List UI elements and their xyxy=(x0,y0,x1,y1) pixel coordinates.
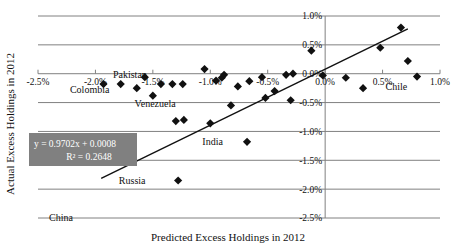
y-tick-label-4: -1.0% xyxy=(299,127,322,137)
y-axis-title: Actual Excess Holdings in 2012 xyxy=(4,53,16,195)
annotation-china: China xyxy=(49,212,73,223)
y-tick-label-0: 1.0% xyxy=(302,11,322,21)
x-tick-label-7: 1.0% xyxy=(430,77,450,87)
annotation-india: India xyxy=(202,136,223,147)
x-tick-label-5: 0.0% xyxy=(315,77,335,87)
equation-text: y = 0.9702x + 0.0008 xyxy=(34,139,116,149)
chart-canvas: 1.0%0.5%0.0%-0.5%-1.0%-1.5%-2.0%-2.5% -2… xyxy=(0,0,456,247)
annotation-colombia: Colombia xyxy=(70,84,110,95)
equation-box: y = 0.9702x + 0.0008R² = 0.2648 xyxy=(29,133,137,166)
x-tick-label-0: -2.5% xyxy=(27,77,50,87)
y-tick-label-6: -2.0% xyxy=(299,185,322,195)
x-tick-label-3: -1.0% xyxy=(199,77,222,87)
y-tick-label-5: -1.5% xyxy=(299,156,322,166)
annotation-venezuela: Venezuela xyxy=(135,98,177,109)
annotation-chile: Chile xyxy=(386,81,408,92)
x-axis-title: Predicted Excess Holdings in 2012 xyxy=(151,231,305,243)
scatter-chart: 1.0%0.5%0.0%-0.5%-1.0%-1.5%-2.0%-2.5% -2… xyxy=(0,0,456,247)
annotation-pakistan: Pakistan xyxy=(113,69,147,80)
y-tick-label-7: -2.5% xyxy=(299,213,322,223)
annotation-russia: Russia xyxy=(119,175,146,186)
r-squared-text: R² = 0.2648 xyxy=(66,152,112,162)
chart-background xyxy=(0,0,456,247)
y-tick-label-3: -0.5% xyxy=(299,98,322,108)
x-tick-label-4: -0.5% xyxy=(256,77,279,87)
y-tick-label-1: 0.5% xyxy=(302,40,322,50)
